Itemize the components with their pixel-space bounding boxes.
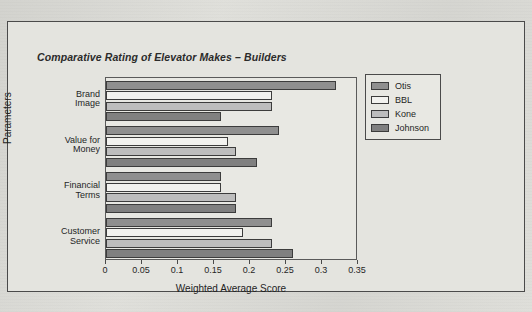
bar-row (106, 172, 356, 181)
legend-label: Kone (395, 109, 416, 119)
bar-row (106, 91, 356, 100)
x-axis-tick (249, 260, 250, 264)
x-axis-tick-label: 0.35 (348, 265, 366, 275)
plot-area (105, 77, 357, 260)
bar-group (106, 126, 356, 167)
x-axis-tick-label: 0.1 (171, 265, 184, 275)
bar-row (106, 218, 356, 227)
bar-row (106, 147, 356, 156)
bar[interactable] (106, 126, 279, 135)
y-axis-category-label: Value forMoney (40, 136, 100, 155)
bar[interactable] (106, 158, 257, 167)
bar-row (106, 183, 356, 192)
legend-item[interactable]: BBL (371, 94, 434, 106)
y-axis-category-label-line: Money (40, 145, 100, 155)
bar[interactable] (106, 91, 272, 100)
bar[interactable] (106, 81, 336, 90)
x-axis-tick (177, 260, 178, 264)
x-axis-tick-label: 0.05 (132, 265, 150, 275)
chart-legend: OtisBBLKoneJohnson (365, 74, 441, 140)
bar-group (106, 81, 356, 122)
x-axis-tick (285, 260, 286, 264)
y-axis-title: Parameters (2, 92, 13, 144)
x-axis-tick-label: 0.15 (204, 265, 222, 275)
x-axis-tick (357, 260, 358, 264)
legend-item[interactable]: Kone (371, 108, 434, 120)
x-axis-title: Weighted Average Score (105, 283, 357, 294)
bar[interactable] (106, 137, 228, 146)
bar[interactable] (106, 218, 272, 227)
bar-row (106, 228, 356, 237)
y-axis-category-label: BrandImage (40, 90, 100, 109)
bar-group (106, 218, 356, 259)
y-axis-category-label-line: Service (40, 237, 100, 247)
bar[interactable] (106, 239, 272, 248)
legend-item[interactable]: Otis (371, 80, 434, 92)
legend-item[interactable]: Johnson (371, 122, 434, 134)
bar[interactable] (106, 228, 243, 237)
bar[interactable] (106, 147, 236, 156)
scanned-page: Comparative Rating of Elevator Makes – B… (0, 0, 532, 312)
y-axis-category-label: FinancialTerms (40, 181, 100, 200)
bar[interactable] (106, 183, 221, 192)
y-axis-category-label-line: Terms (40, 191, 100, 201)
legend-label: BBL (395, 95, 412, 105)
bar-row (106, 249, 356, 258)
bar-row (106, 158, 356, 167)
bar[interactable] (106, 172, 221, 181)
bar-group (106, 172, 356, 213)
x-axis-tick-label: 0 (102, 265, 107, 275)
bar-row (106, 81, 356, 90)
x-axis-tick (141, 260, 142, 264)
bar-row (106, 193, 356, 202)
x-axis-tick (213, 260, 214, 264)
bar-row (106, 112, 356, 121)
bar-row (106, 126, 356, 135)
bar[interactable] (106, 249, 293, 258)
y-axis-category-labels: BrandImageValue forMoneyFinancialTermsCu… (38, 77, 100, 260)
bar[interactable] (106, 204, 236, 213)
legend-swatch (371, 124, 389, 132)
x-axis-tick-label: 0.25 (276, 265, 294, 275)
y-axis-category-label: CustomerService (40, 227, 100, 246)
legend-swatch (371, 96, 389, 104)
bar-row (106, 102, 356, 111)
bar-row (106, 137, 356, 146)
bar[interactable] (106, 112, 221, 121)
plot-area-wrapper (105, 77, 357, 260)
x-axis-tick-label: 0.3 (315, 265, 328, 275)
legend-swatch (371, 82, 389, 90)
x-axis-tick (321, 260, 322, 264)
x-axis-tick-label: 0.2 (243, 265, 256, 275)
bar-row (106, 239, 356, 248)
x-axis-tick (105, 260, 106, 264)
legend-swatch (371, 110, 389, 118)
bar[interactable] (106, 102, 272, 111)
bar-row (106, 204, 356, 213)
legend-label: Otis (395, 81, 411, 91)
x-axis-ticks: 00.050.10.150.20.250.30.35 (105, 260, 357, 265)
chart-title: Comparative Rating of Elevator Makes – B… (37, 51, 287, 63)
figure-frame: Comparative Rating of Elevator Makes – B… (7, 21, 525, 292)
y-axis-category-label-line: Image (40, 99, 100, 109)
bar[interactable] (106, 193, 236, 202)
legend-label: Johnson (395, 123, 429, 133)
